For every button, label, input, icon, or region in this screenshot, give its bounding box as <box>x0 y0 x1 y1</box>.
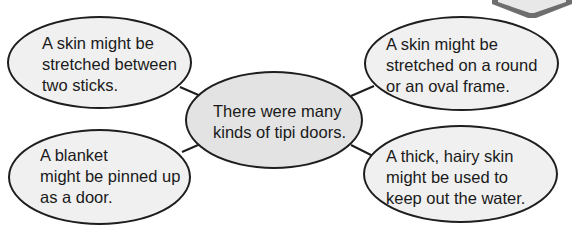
text-line: as a door. <box>40 187 180 208</box>
text-line: kinds of tipi doors. <box>213 122 346 143</box>
node-bottom-right-text: A thick, hairy skin might be used to kee… <box>386 146 525 209</box>
connector-top-right <box>351 86 374 96</box>
text-line: stretched between <box>42 54 177 75</box>
text-line: A blanket <box>40 145 180 166</box>
text-line: A skin might be <box>42 33 177 54</box>
text-line: There were many <box>213 101 346 122</box>
text-line: or an oval frame. <box>386 76 537 97</box>
text-line: stretched on a round <box>386 55 537 76</box>
node-bottom-left-text: A blanket might be pinned up as a door. <box>40 145 180 208</box>
node-top-right-text: A skin might be stretched on a round or … <box>386 34 537 97</box>
text-line: might be pinned up <box>40 166 180 187</box>
node-top-left-text: A skin might be stretched between two st… <box>42 33 177 96</box>
text-line: two sticks. <box>42 75 177 96</box>
text-line: A thick, hairy skin <box>386 146 525 167</box>
node-center-text: There were many kinds of tipi doors. <box>213 101 346 143</box>
text-line: A skin might be <box>386 34 537 55</box>
text-line: might be used to <box>386 167 525 188</box>
text-line: keep out the water. <box>386 188 525 209</box>
